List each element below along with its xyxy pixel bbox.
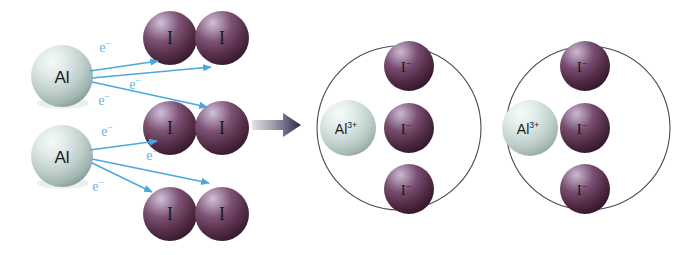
i2-molecule-3-atom-1-label: I — [167, 204, 173, 224]
al-atom-1: Al — [31, 45, 93, 109]
diagram-canvas: Al Al I I I I — [0, 0, 699, 255]
i2-molecule-2-atom-2-label: I — [219, 118, 225, 138]
electron-transfer-6-label: e− — [92, 177, 104, 194]
electron-transfer-4-label: e− — [101, 122, 113, 139]
electron-transfer-1-label: e− — [99, 38, 111, 55]
i2-molecule-1: I I — [143, 11, 249, 65]
al-atom-2-label: Al — [54, 148, 69, 167]
i2-molecule-3-atom-2-label: I — [219, 204, 225, 224]
electron-transfer-2-label: e− — [129, 75, 141, 92]
electron-transfer-3-label: e− — [98, 91, 110, 108]
i2-molecule-3: I I — [143, 187, 249, 241]
al-atom-1-label: Al — [54, 68, 69, 87]
reaction-arrow — [252, 113, 301, 137]
i2-molecule-2-atom-1-label: I — [167, 118, 173, 138]
electron-transfer-1-arrow — [90, 61, 158, 71]
al-atom-2: Al — [31, 125, 93, 189]
i2-molecule-2: I I — [143, 101, 249, 155]
formula-unit-2: Al3+ I− I− I− — [502, 41, 670, 214]
i2-molecule-1-atom-1-label: I — [167, 28, 173, 48]
aluminum-atom-group: Al Al — [31, 45, 93, 189]
electron-transfer-5-label: e− — [146, 146, 158, 163]
iodine-molecule-group: I I I I I I — [143, 11, 249, 241]
formula-unit-1: Al3+ I− I− I− — [317, 41, 481, 214]
i2-molecule-1-atom-2-label: I — [219, 28, 225, 48]
reaction-diagram: Al Al I I I I — [0, 0, 699, 255]
